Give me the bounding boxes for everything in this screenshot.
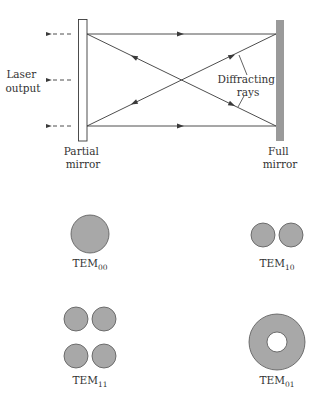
mode-label: TEM11 [73,374,108,389]
arrow-up-left-icon [130,53,138,60]
mode-tem00: TEM00 [71,215,109,272]
mode-spot [92,307,116,331]
arrow-right-icon [177,124,184,129]
arrow-down-right-icon [228,101,236,108]
arrow-right-icon [177,32,184,37]
mode-spot [279,223,303,247]
mode-tem11: TEM11 [64,307,116,389]
diffracting-rays-label: Diffracting rays [218,73,279,98]
mode-spot [92,344,116,368]
mode-label: TEM01 [260,374,295,389]
mode-spot [251,223,275,247]
mode-label: TEM00 [73,257,108,272]
mode-tem10: TEM10 [251,223,303,272]
mode-annulus-hole [267,332,287,352]
partial-mirror [79,20,88,142]
mode-spot [71,215,109,253]
mode-tem01: TEM01 [249,314,305,389]
laser-cavity-diagram: Laser output Diffracting rays Partial mi… [0,0,322,404]
partial-mirror-label: Partial mirror [64,145,102,170]
arrow-up-right-icon [228,52,236,59]
arrow-down-left-icon [130,99,138,106]
laser-output-label: Laser output [5,68,41,94]
laser-output-arrows [51,34,71,126]
mode-spot [64,307,88,331]
full-mirror-label: Full mirror [263,145,299,170]
mode-label: TEM10 [260,257,295,272]
mode-spot [64,344,88,368]
